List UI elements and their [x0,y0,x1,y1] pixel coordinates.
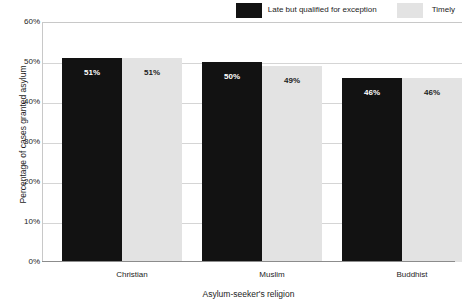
x-tick-muslim: Muslim [202,270,342,279]
x-tick-christian: Christian [62,270,202,279]
bar-value-muslim-timely: 49% [262,76,322,85]
bar-buddhist-late[interactable]: 46% [342,78,402,262]
bar-value-buddhist-late: 46% [342,88,402,97]
y-axis: 60% 50% 40% 30% 20% 10% 0% Percentage of… [0,0,40,298]
y-axis-title: Percentage of cases granted asylum [19,15,28,255]
bars-layer: 51% 51% 50% 49% 46% 46% [42,22,462,262]
bar-group-christian: 51% 51% [62,22,182,262]
bar-muslim-late[interactable]: 50% [202,62,262,262]
legend-swatch-icon-dark [236,3,262,18]
legend-label-late-qualified: Late but qualified for exception [268,5,377,15]
bar-group-muslim: 50% 49% [202,22,322,262]
bar-value-buddhist-timely: 46% [402,88,462,97]
legend-label-timely: Timely [432,5,455,15]
bar-value-muslim-late: 50% [202,72,262,81]
bar-christian-late[interactable]: 51% [62,58,122,262]
x-axis-line [42,261,455,262]
legend-entry-timely[interactable]: Timely [397,3,455,18]
bar-group-buddhist: 46% 46% [342,22,462,262]
bar-value-christian-late: 51% [62,68,122,77]
y-tick-0: 0% [4,258,40,266]
bar-muslim-timely[interactable]: 49% [262,66,322,262]
legend-swatch-icon-light [397,3,423,18]
bar-value-christian-timely: 51% [122,68,182,77]
bar-christian-timely[interactable]: 51% [122,58,182,262]
x-tick-buddhist: Buddhist [342,270,466,279]
x-axis-title: Asylum-seeker's religion [42,290,455,299]
bar-buddhist-timely[interactable]: 46% [402,78,462,262]
legend-entry-late-qualified[interactable]: Late but qualified for exception [236,3,377,18]
chart-legend: Late but qualified for exception Timely [0,0,455,20]
